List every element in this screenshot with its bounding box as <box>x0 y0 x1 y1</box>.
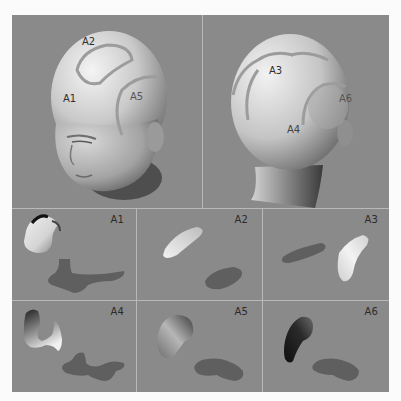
front-head-illustration <box>12 15 202 208</box>
region-label-a6: A6 <box>339 93 352 104</box>
patch-panel-a6: A6 <box>263 301 389 392</box>
patch-label-a3: A3 <box>364 214 378 225</box>
region-label-a5: A5 <box>130 91 143 102</box>
patch-panel-a5: A5 <box>137 301 262 392</box>
patch-panel-a2: A2 <box>137 209 262 300</box>
region-label-a1: A1 <box>63 93 76 104</box>
patch-panel-a1: A1 <box>12 209 136 300</box>
patch-label-a6: A6 <box>364 306 378 317</box>
patch-label-a5: A5 <box>234 306 248 317</box>
patch-panel-a4: A4 <box>12 301 136 392</box>
figure: A2 A1 A5 <box>12 15 389 392</box>
panel-front-head: A2 A1 A5 <box>12 15 202 208</box>
patch-label-a1: A1 <box>110 214 124 225</box>
divider-top-vertical <box>202 15 203 208</box>
patch-panel-a3: A3 <box>263 209 389 300</box>
patch-label-a2: A2 <box>234 214 248 225</box>
region-label-a2: A2 <box>82 36 95 47</box>
patch-label-a4: A4 <box>110 306 124 317</box>
region-label-a4: A4 <box>287 124 300 135</box>
panel-back-head: A3 A6 A4 <box>203 15 389 208</box>
back-head-illustration <box>203 15 389 208</box>
region-label-a3: A3 <box>269 65 282 76</box>
